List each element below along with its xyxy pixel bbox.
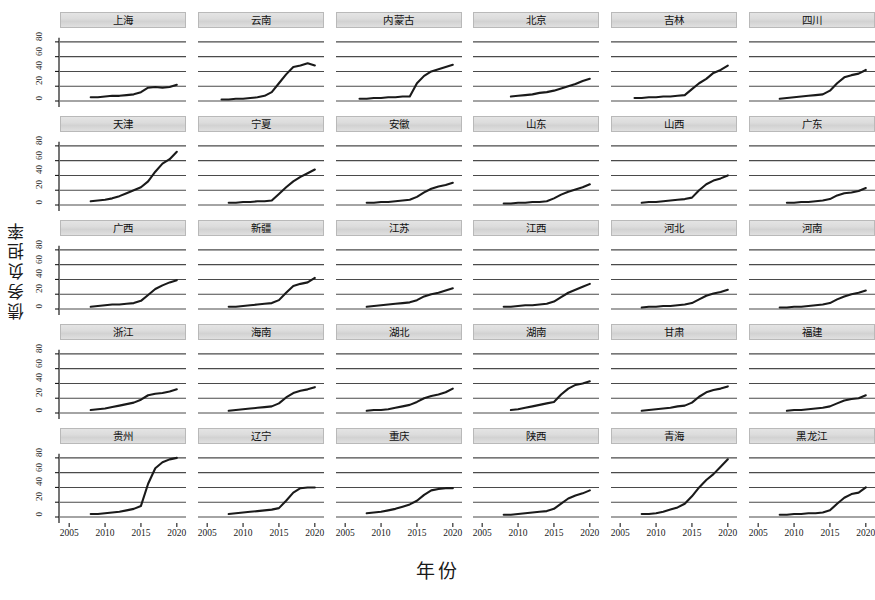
x-axis-title-text: 年份 xyxy=(416,560,460,582)
y-tick-labels: 020406080 xyxy=(4,133,44,211)
x-tick-2015: 2015 xyxy=(131,528,150,538)
panel-山西[interactable]: 山西 xyxy=(611,116,737,220)
plot-area-陕西 xyxy=(473,445,599,523)
panel-title: 辽宁 xyxy=(251,431,272,442)
panel-strip-福建: 福建 xyxy=(749,324,875,340)
panel-svg xyxy=(60,133,186,211)
plot-area-宁夏 xyxy=(198,133,324,211)
y-tick-80: 80 xyxy=(35,32,44,41)
y-axis-spine xyxy=(53,29,60,107)
series-line-江西 xyxy=(504,284,590,307)
panel-陕西[interactable]: 陕西2005201020152020 xyxy=(473,428,599,532)
panel-svg xyxy=(749,445,875,523)
panel-天津[interactable]: 天津020406080 xyxy=(60,116,186,220)
x-tick-2010: 2010 xyxy=(234,528,253,538)
panel-svg xyxy=(336,237,462,315)
x-tick-2005: 2005 xyxy=(336,528,355,538)
plot-area-重庆 xyxy=(336,445,462,523)
panel-内蒙古[interactable]: 内蒙古 xyxy=(336,12,462,116)
panel-title: 陕西 xyxy=(526,431,547,442)
plot-area-浙江 xyxy=(60,341,186,419)
panel-湖南[interactable]: 湖南 xyxy=(473,324,599,428)
panel-strip-广西: 广西 xyxy=(60,220,186,236)
panel-row: 天津020406080宁夏安徽山东山西广东 xyxy=(60,116,875,220)
panel-title: 内蒙古 xyxy=(383,15,415,26)
x-tick-2015: 2015 xyxy=(407,528,426,538)
panel-宁夏[interactable]: 宁夏 xyxy=(198,116,324,220)
panel-svg xyxy=(473,133,599,211)
panel-江苏[interactable]: 江苏 xyxy=(336,220,462,324)
series-line-贵州 xyxy=(91,458,177,514)
panel-title: 江西 xyxy=(526,223,547,234)
panel-海南[interactable]: 海南 xyxy=(198,324,324,428)
panel-新疆[interactable]: 新疆 xyxy=(198,220,324,324)
y-tick-60: 60 xyxy=(35,463,44,472)
panel-山东[interactable]: 山东 xyxy=(473,116,599,220)
plot-area-辽宁 xyxy=(198,445,324,523)
plot-area-北京 xyxy=(473,29,599,107)
panel-安徽[interactable]: 安徽 xyxy=(336,116,462,220)
panel-svg xyxy=(611,29,737,107)
series-line-湖北 xyxy=(367,389,453,411)
panel-svg xyxy=(749,237,875,315)
panel-青海[interactable]: 青海2005201020152020 xyxy=(611,428,737,532)
plot-area-河南 xyxy=(749,237,875,315)
panel-河北[interactable]: 河北 xyxy=(611,220,737,324)
panel-title: 浙江 xyxy=(113,327,134,338)
lattice-panel-grid: 上海020406080云南内蒙古北京吉林四川天津020406080宁夏安徽山东山… xyxy=(60,12,875,542)
panel-strip-云南: 云南 xyxy=(198,12,324,28)
panel-四川[interactable]: 四川 xyxy=(749,12,875,116)
plot-area-河北 xyxy=(611,237,737,315)
panel-江西[interactable]: 江西 xyxy=(473,220,599,324)
panel-甘肃[interactable]: 甘肃 xyxy=(611,324,737,428)
panel-福建[interactable]: 福建 xyxy=(749,324,875,428)
panel-svg xyxy=(60,237,186,315)
plot-area-天津 xyxy=(60,133,186,211)
y-tick-80: 80 xyxy=(35,344,44,353)
panel-辽宁[interactable]: 辽宁2005201020152020 xyxy=(198,428,324,532)
series-line-河北 xyxy=(642,290,728,308)
x-tick-2015: 2015 xyxy=(820,528,839,538)
x-tick-2015: 2015 xyxy=(682,528,701,538)
panel-svg xyxy=(611,237,737,315)
panel-广东[interactable]: 广东 xyxy=(749,116,875,220)
panel-北京[interactable]: 北京 xyxy=(473,12,599,116)
panel-黑龙江[interactable]: 黑龙江2005201020152020 xyxy=(749,428,875,532)
y-tick-60: 60 xyxy=(35,151,44,160)
plot-area-四川 xyxy=(749,29,875,107)
panel-row: 上海020406080云南内蒙古北京吉林四川 xyxy=(60,12,875,116)
panel-吉林[interactable]: 吉林 xyxy=(611,12,737,116)
panel-svg xyxy=(60,29,186,107)
x-tick-2020: 2020 xyxy=(305,528,324,538)
panel-重庆[interactable]: 重庆2005201020152020 xyxy=(336,428,462,532)
panel-strip-广东: 广东 xyxy=(749,116,875,132)
y-tick-labels: 020406080 xyxy=(4,445,44,523)
panel-strip-内蒙古: 内蒙古 xyxy=(336,12,462,28)
x-tick-labels: 2005201020152020 xyxy=(198,528,324,542)
panel-上海[interactable]: 上海020406080 xyxy=(60,12,186,116)
panel-title: 云南 xyxy=(251,15,272,26)
y-tick-40: 40 xyxy=(35,373,44,382)
panel-strip-天津: 天津 xyxy=(60,116,186,132)
panel-河南[interactable]: 河南 xyxy=(749,220,875,324)
y-tick-40: 40 xyxy=(35,477,44,486)
panel-湖北[interactable]: 湖北 xyxy=(336,324,462,428)
plot-area-青海 xyxy=(611,445,737,523)
panel-title: 贵州 xyxy=(113,431,134,442)
panel-广西[interactable]: 广西020406080 xyxy=(60,220,186,324)
x-tick-2015: 2015 xyxy=(269,528,288,538)
panel-云南[interactable]: 云南 xyxy=(198,12,324,116)
panel-strip-四川: 四川 xyxy=(749,12,875,28)
panel-strip-河南: 河南 xyxy=(749,220,875,236)
plot-area-云南 xyxy=(198,29,324,107)
series-line-湖南 xyxy=(511,381,590,410)
panel-svg xyxy=(473,29,599,107)
panel-浙江[interactable]: 浙江020406080 xyxy=(60,324,186,428)
panel-svg xyxy=(336,133,462,211)
x-tick-2020: 2020 xyxy=(167,528,186,538)
plot-area-上海 xyxy=(60,29,186,107)
x-tick-2005: 2005 xyxy=(611,528,630,538)
panel-strip-江苏: 江苏 xyxy=(336,220,462,236)
panel-贵州[interactable]: 贵州0204060802005201020152020 xyxy=(60,428,186,532)
plot-area-黑龙江 xyxy=(749,445,875,523)
